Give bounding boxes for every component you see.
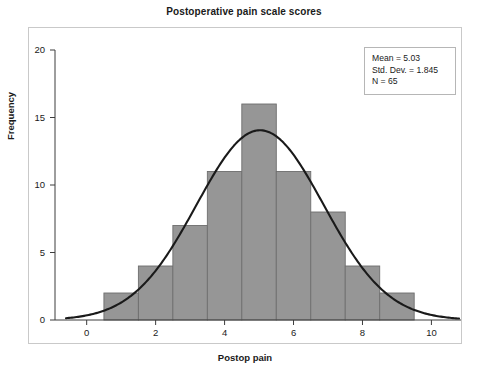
stat-mean: Mean = 5.03 xyxy=(372,53,449,65)
y-axis-title: Frequency xyxy=(5,126,16,140)
histogram-bar xyxy=(173,226,207,321)
histogram-bar xyxy=(276,172,310,321)
histogram-bar xyxy=(380,293,414,320)
x-axis-tick-label: 4 xyxy=(222,327,227,338)
y-axis-tick-label: 15 xyxy=(34,112,45,123)
x-axis-title: Postop pain xyxy=(28,352,462,363)
x-axis-tick-label: 0 xyxy=(84,327,89,338)
y-axis-tick-label: 20 xyxy=(34,44,45,55)
x-axis-tick-label: 10 xyxy=(426,327,437,338)
stat-n: N = 65 xyxy=(372,76,449,88)
histogram-bar xyxy=(311,212,345,320)
histogram-bar xyxy=(345,266,379,320)
histogram-bar xyxy=(207,172,241,321)
y-axis-tick-label: 10 xyxy=(34,179,45,190)
x-axis-tick-label: 8 xyxy=(360,327,365,338)
x-axis-tick-label: 6 xyxy=(291,327,296,338)
figure-container: Postoperative pain scale scores 05101520… xyxy=(0,0,488,387)
y-axis-tick-label: 0 xyxy=(40,314,45,325)
histogram-bar xyxy=(104,293,138,320)
bottom-caption xyxy=(18,376,278,385)
y-axis-tick-label: 5 xyxy=(40,247,45,258)
stat-std-dev: Std. Dev. = 1.845 xyxy=(372,65,449,77)
histogram-bar xyxy=(242,104,276,320)
histogram-bar xyxy=(138,266,172,320)
x-axis-tick-label: 2 xyxy=(153,327,158,338)
statistics-legend-box: Mean = 5.03 Std. Dev. = 1.845 N = 65 xyxy=(364,47,456,95)
